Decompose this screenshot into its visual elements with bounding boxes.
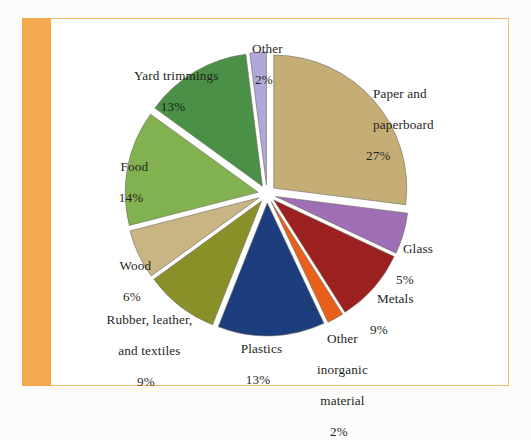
slice-value: 2% [219, 72, 309, 88]
slice-label-line2: and textiles [118, 343, 180, 358]
slice-label-other: Other 2% [219, 25, 309, 103]
slice-label-plastics: Plastics 13% [213, 325, 303, 403]
slice-value: 2% [291, 424, 387, 440]
slice-label-paper-and-paperboard: Paper and paperboard 27% [366, 70, 496, 179]
slice-label-line1: Plastics [241, 341, 283, 356]
slice-value: 13% [213, 372, 303, 388]
slice-label-line2: inorganic [317, 362, 368, 377]
slice-label-line1: Food [121, 159, 149, 174]
slice-label-wood: Wood 6% [87, 242, 177, 320]
slice-label-other-inorganic-material: Other inorganic material 2% [291, 315, 387, 440]
slice-label-line3: material [320, 393, 364, 408]
slice-value: 9% [80, 374, 212, 390]
slice-label-line1: Other [252, 41, 283, 56]
slice-value: 27% [366, 148, 496, 164]
slice-value: 14% [88, 190, 174, 206]
slice-label-line2: paperboard [373, 117, 434, 132]
slice-label-line1: Other [327, 331, 358, 346]
slice-label-line1: Yard trimmings [134, 68, 219, 83]
slice-label-line1: Metals [377, 291, 414, 306]
slice-value: 6% [87, 289, 177, 305]
slice-label-line1: Wood [119, 258, 151, 273]
slice-label-line1: Glass [403, 241, 433, 256]
slice-label-food: Food 14% [88, 143, 174, 221]
slice-label-line1: Paper and [373, 86, 427, 101]
